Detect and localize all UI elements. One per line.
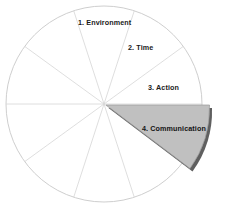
segment-label-environment: 1. Environment <box>78 18 132 27</box>
segment-label-action: 3. Action <box>148 83 179 92</box>
pie-diagram-svg: 1. Environment 2. Time 3. Action 4. Comm… <box>0 0 234 214</box>
pie-diagram-figure: 1. Environment 2. Time 3. Action 4. Comm… <box>0 0 234 214</box>
segment-label-time: 2. Time <box>128 43 153 52</box>
segment-label-communication: 4. Communication <box>142 124 206 133</box>
